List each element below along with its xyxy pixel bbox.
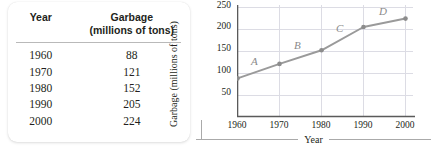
- segment-label-A: A: [251, 55, 258, 67]
- segment-label-D: D: [379, 5, 387, 17]
- y-tick-label-250: 250: [201, 0, 231, 10]
- garbage-data-table-body: 1960 88 1970 121 1980 152 1990 205 2000 …: [8, 47, 190, 129]
- column-header-year: Year: [8, 11, 74, 37]
- cell-year: 2000: [8, 113, 74, 129]
- x-axis-title: Year: [298, 134, 328, 145]
- plot-svg: [237, 5, 417, 123]
- table-row: 1970 121: [8, 63, 190, 79]
- garbage-data-table-card: Year Garbage (millions of tons) 1960 88 …: [8, 2, 190, 142]
- table-body: 1960 88 1970 121 1980 152 1990 205 2000 …: [8, 47, 190, 129]
- x-tick-label-2000: 2000: [385, 120, 425, 130]
- segment-label-C: C: [336, 22, 343, 34]
- segment-label-B: B: [294, 39, 301, 51]
- table-header: Year Garbage (millions of tons): [8, 11, 190, 37]
- y-axis-title: Garbage (millions of tons): [168, 14, 179, 134]
- y-tick-label-50: 50: [201, 87, 231, 97]
- cell-year: 1980: [8, 80, 74, 96]
- x-axis-rule-right: [329, 139, 431, 140]
- data-point-1990: [361, 25, 366, 30]
- x-tick-label-1980: 1980: [301, 120, 341, 130]
- cell-year: 1970: [8, 63, 74, 79]
- table-row: 1980 152: [8, 80, 190, 96]
- data-point-2000: [403, 16, 408, 21]
- gridlines-horizontal: [237, 8, 413, 96]
- table-header-row: Year Garbage (millions of tons): [8, 11, 190, 37]
- y-tick-label-100: 100: [201, 65, 231, 75]
- x-axis-rule-left: [196, 139, 298, 140]
- cell-year: 1990: [8, 96, 74, 112]
- x-tick-label-1990: 1990: [343, 120, 383, 130]
- column-header-garbage-main: Garbage: [110, 11, 153, 23]
- table-header-divider: [16, 42, 181, 43]
- y-tick-label-150: 150: [201, 43, 231, 53]
- garbage-data-table: Year Garbage (millions of tons): [8, 11, 190, 37]
- plot-area: A B C D: [237, 5, 413, 117]
- garbage-line-chart: Garbage (millions of tons) 250 200 150 1…: [196, 0, 431, 155]
- y-tick-label-200: 200: [201, 21, 231, 31]
- data-markers: [237, 16, 408, 80]
- data-point-1970: [277, 62, 282, 67]
- x-tick-label-1960: 1960: [217, 120, 257, 130]
- data-point-1980: [319, 48, 324, 53]
- cell-year: 1960: [8, 47, 74, 63]
- table-row: 2000 224: [8, 113, 190, 129]
- x-tick-label-1970: 1970: [259, 120, 299, 130]
- x-axis-title-row: Year: [196, 134, 431, 145]
- table-row: 1990 205: [8, 96, 190, 112]
- table-row: 1960 88: [8, 47, 190, 63]
